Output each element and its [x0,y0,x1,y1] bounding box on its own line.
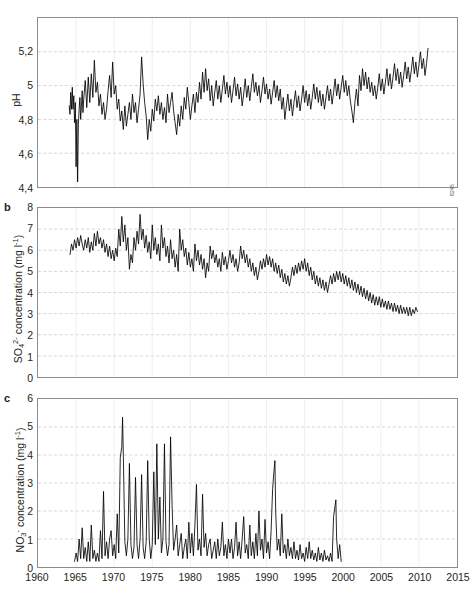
panel-b-plot-area [37,207,458,378]
data-series-line [69,48,428,182]
y-tick-label: 2 [27,330,33,341]
panel-c-plot-area [37,398,458,568]
y-tick-label: 4 [27,449,33,460]
so4-label-post: concentration (mg l [12,245,24,337]
x-tick-label: 2000 [331,572,354,583]
x-axis-tick-labels: 1960196519701975198019851990199520002005… [37,572,458,588]
panel-a-axis-title: pH [10,77,22,123]
x-tick-label: 2015 [446,572,469,583]
no3-label-sup: - [13,530,22,533]
y-tick-label: 1 [27,534,33,545]
y-tick-label: 5,2 [18,46,33,57]
panel-c-axis-title: NO3- concentration (mg l-1) [14,410,26,570]
x-tick-label: 1975 [140,572,163,583]
panel-a-chart [38,18,457,187]
panel-c-nitrate: c 0123456 NO3- concentration (mg l-1) 19… [0,381,475,597]
y-tick-label: 5 [27,80,33,91]
panel-b-chart [38,208,457,377]
y-tick-label: 8 [27,202,33,213]
x-tick-label: 1960 [25,572,48,583]
so4-label-sub: 4 [17,344,26,348]
x-tick-label: 2010 [408,572,431,583]
figure-root: 4,44,64,855,2 pH 8245 b 012345678 SO42- … [0,0,475,597]
data-series-line [75,417,342,561]
y-tick-label: 3 [27,478,33,489]
x-tick-label: 1995 [293,572,316,583]
y-tick-label: 5 [27,266,33,277]
y-tick-label: 5 [27,421,33,432]
panel-c-chart [38,399,457,567]
no3-label-close: ) [14,428,26,432]
y-tick-label: 2 [27,506,33,517]
x-tick-label: 1990 [255,572,278,583]
so4-label-close: ) [12,235,24,239]
x-tick-label: 1980 [178,572,201,583]
no3-label-post: concentration (mg l [14,438,26,530]
so4-label-sup: 2- [11,337,20,344]
so4-label-supend: -1 [11,238,20,245]
y-tick-label: 6 [27,393,33,404]
data-series-line [70,214,417,315]
y-tick-label: 7 [27,223,33,234]
y-tick-label: 4,6 [18,149,33,160]
x-tick-label: 1970 [102,572,125,583]
so4-label-pre: SO [12,348,24,363]
y-tick-label: 1 [27,351,33,362]
y-tick-label: 6 [27,245,33,256]
x-tick-label: 1965 [64,572,87,583]
y-tick-label: 4 [27,287,33,298]
panel-a-ph: 4,44,64,855,2 pH 8245 [0,0,475,200]
panel-a-plot-area: 8245 [37,17,458,188]
panel-b-sulphate: b 012345678 SO42- concentration (mg l-1) [0,190,475,390]
no3-label-sub: 3 [19,533,28,537]
no3-label-supend: -1 [13,431,22,438]
x-tick-label: 1985 [217,572,240,583]
x-tick-label: 2005 [370,572,393,583]
panel-b-axis-title: SO42- concentration (mg l-1) [12,219,24,379]
y-tick-label: 3 [27,309,33,320]
no3-label-pre: NO [14,537,26,553]
